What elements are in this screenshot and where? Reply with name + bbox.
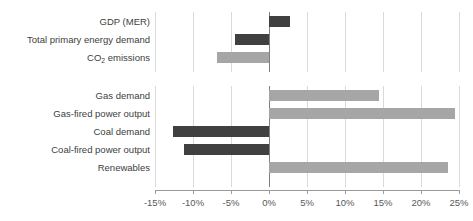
category-label-coal-demand: Coal demand bbox=[0, 126, 150, 137]
category-label-gas-fired-power-output: Gas-fired power output bbox=[0, 108, 150, 119]
co2-label-prefix: CO bbox=[87, 52, 101, 63]
bar-gas-fired-power-output[interactable] bbox=[269, 108, 455, 119]
x-axis-label-25: 25% bbox=[439, 197, 473, 208]
x-axis-tick-0 bbox=[269, 190, 270, 194]
x-axis-tick-25 bbox=[459, 190, 460, 194]
x-axis-tick--15 bbox=[155, 190, 156, 194]
category-label-co2-emissions: CO2 emissions bbox=[0, 52, 150, 64]
x-axis-tick-5 bbox=[307, 190, 308, 194]
bar-gdp-mer[interactable] bbox=[269, 16, 290, 27]
bars-top bbox=[155, 12, 459, 72]
x-axis-tick-10 bbox=[345, 190, 346, 194]
x-axis-label--10: -10% bbox=[173, 197, 213, 208]
bar-total-primary-energy-demand[interactable] bbox=[235, 34, 269, 45]
gridline-25 bbox=[459, 12, 460, 72]
bars-bottom bbox=[155, 86, 459, 187]
x-axis-tick--10 bbox=[193, 190, 194, 194]
x-axis-tick-20 bbox=[421, 190, 422, 194]
x-axis-label--15: -15% bbox=[135, 197, 175, 208]
chart-title bbox=[0, 0, 463, 2]
bar-co2-emissions[interactable] bbox=[217, 52, 269, 63]
x-axis-label-20: 20% bbox=[401, 197, 441, 208]
gridline-25 bbox=[459, 86, 460, 187]
bar-coal-demand[interactable] bbox=[173, 126, 269, 137]
x-axis-label-10: 10% bbox=[325, 197, 365, 208]
co2-label-suffix: emissions bbox=[105, 52, 150, 63]
bar-gas-demand[interactable] bbox=[269, 90, 379, 101]
bar-renewables[interactable] bbox=[269, 162, 448, 173]
category-label-gas-demand: Gas demand bbox=[0, 90, 150, 101]
category-label-coal-fired-power-output: Coal-fired power output bbox=[0, 144, 150, 155]
x-axis-label--5: -5% bbox=[211, 197, 251, 208]
x-axis-label-15: 15% bbox=[363, 197, 403, 208]
co2-label-subscript: 2 bbox=[101, 57, 105, 64]
x-axis-tick--5 bbox=[231, 190, 232, 194]
category-label-renewables: Renewables bbox=[0, 162, 150, 173]
category-label-total-primary-energy-demand: Total primary energy demand bbox=[0, 34, 150, 45]
bar-coal-fired-power-output[interactable] bbox=[184, 144, 269, 155]
x-axis-tick-15 bbox=[383, 190, 384, 194]
panel-fuels-and-power bbox=[155, 86, 459, 187]
x-axis-label-5: 5% bbox=[287, 197, 327, 208]
x-axis-label-0: 0% bbox=[249, 197, 289, 208]
category-label-gdp-mer: GDP (MER) bbox=[0, 16, 150, 27]
panel-macro-indicators bbox=[155, 12, 459, 72]
